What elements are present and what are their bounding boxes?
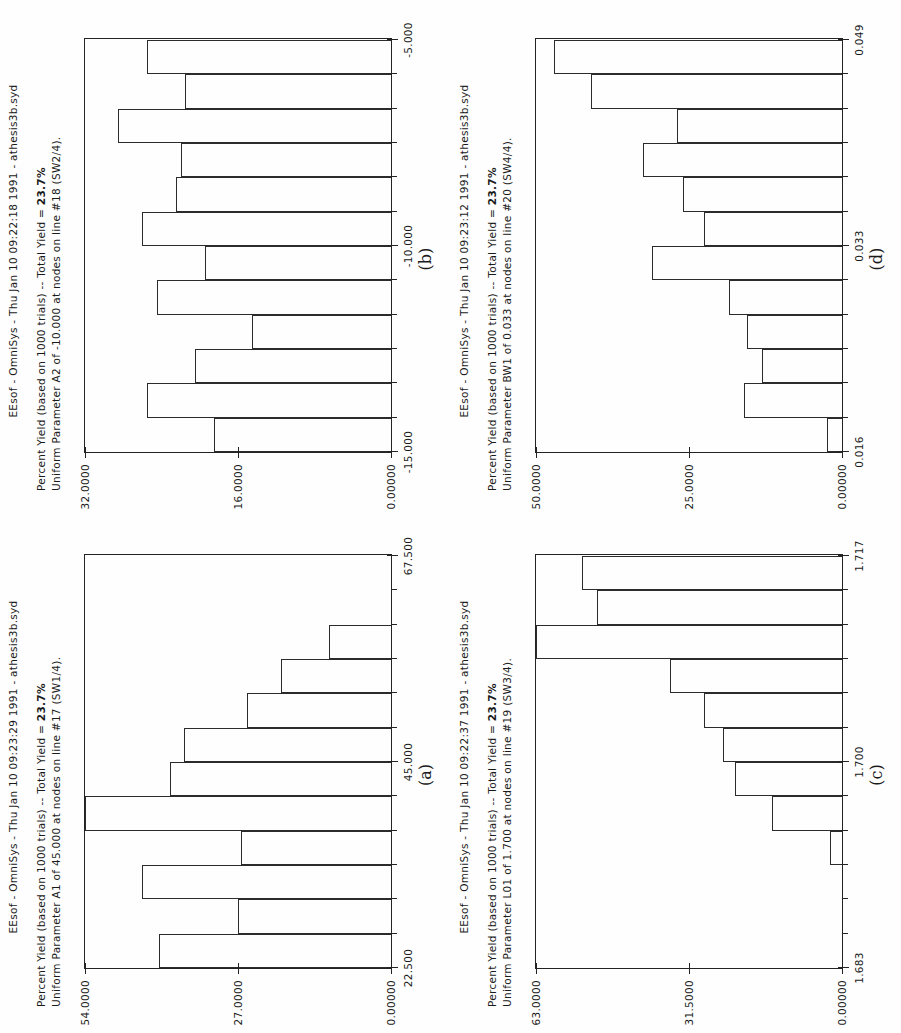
- x-tick-minor: [843, 176, 848, 177]
- x-tick-major: [387, 451, 398, 452]
- panel-a: EEsof - OmniSys - Thu Jan 10 09:23:29 19…: [0, 517, 450, 1033]
- histogram-bars: [536, 40, 842, 452]
- plot-subtitle-line2: Uniform Parameter A1 of 45.000 at nodes …: [49, 527, 64, 1007]
- x-tick-minor: [392, 416, 397, 417]
- total-yield-value: 23.7%: [35, 683, 47, 721]
- plot-subtitle-line2: Uniform Parameter L01 of 1.700 at nodes …: [500, 527, 515, 1007]
- plot-subtitle-line2: Uniform Parameter BW1 of 0.033 at nodes …: [500, 11, 515, 491]
- total-yield-value: 23.7%: [486, 167, 498, 205]
- histogram-bar: [772, 796, 842, 830]
- yield-text: Percent Yield (based on 1000 trials) -- …: [486, 721, 498, 1007]
- plot-subtitle-line2: Uniform Parameter A2 of -10.000 at nodes…: [49, 11, 64, 491]
- histogram-bar: [205, 246, 391, 280]
- histogram-bar: [704, 693, 842, 727]
- x-tick-major: [838, 451, 849, 452]
- x-tick-minor: [843, 727, 848, 728]
- x-tick-minor: [843, 382, 848, 383]
- title-block: EEsof - OmniSys - Thu Jan 10 09:23:12 19…: [457, 11, 515, 491]
- x-tick-minor: [843, 313, 848, 314]
- histogram-bar: [214, 417, 391, 451]
- x-tick-major: [387, 761, 398, 762]
- plot-header: EEsof - OmniSys - Thu Jan 10 09:23:12 19…: [457, 11, 472, 491]
- x-tick-minor: [843, 107, 848, 108]
- x-axis-label: 22.500: [402, 949, 414, 988]
- title-block: EEsof - OmniSys - Thu Jan 10 09:22:37 19…: [457, 527, 515, 1007]
- x-axis-label: -5.000: [402, 22, 414, 58]
- histogram-bar: [830, 831, 842, 865]
- axes-right-line: [84, 38, 392, 39]
- x-tick-minor: [392, 864, 397, 865]
- histogram-bar: [281, 659, 392, 693]
- y-tick: [536, 447, 537, 458]
- y-tick: [85, 447, 86, 458]
- plot-subtitle-line1: Percent Yield (based on 1000 trials) -- …: [34, 527, 49, 1007]
- x-tick-minor: [843, 864, 848, 865]
- y-axis-label: 63.0000: [530, 980, 542, 1026]
- x-tick-minor: [392, 348, 397, 349]
- x-tick-minor: [843, 658, 848, 659]
- histogram-bar: [735, 762, 842, 796]
- title-block: EEsof - OmniSys - Thu Jan 10 09:22:18 19…: [6, 11, 64, 491]
- x-tick-minor: [392, 898, 397, 899]
- x-tick-minor: [392, 176, 397, 177]
- x-tick-major: [387, 39, 398, 40]
- histogram-bar: [181, 143, 391, 177]
- histogram-bar: [147, 383, 391, 417]
- histogram-bar: [591, 74, 842, 108]
- histogram-bar: [723, 728, 842, 762]
- x-tick-major: [838, 555, 849, 556]
- figure-page: EEsof - OmniSys - Thu Jan 10 09:22:18 19…: [0, 0, 901, 1033]
- y-tick: [238, 963, 239, 974]
- y-tick: [536, 963, 537, 974]
- y-tick: [391, 447, 392, 458]
- histogram-bar: [252, 314, 391, 348]
- yield-text: Percent Yield (based on 1000 trials) -- …: [486, 205, 498, 491]
- x-tick-major: [387, 555, 398, 556]
- histogram-bar: [729, 280, 842, 314]
- x-axis-label: 0.016: [853, 436, 865, 468]
- histogram-bar: [176, 177, 391, 211]
- histogram-bar: [762, 349, 842, 383]
- x-tick-minor: [843, 348, 848, 349]
- histogram-bar: [142, 211, 391, 245]
- x-tick-major: [838, 39, 849, 40]
- y-axis-label: 27.0000: [232, 980, 244, 1026]
- x-tick-minor: [843, 279, 848, 280]
- y-axis-label: 31.5000: [683, 980, 695, 1026]
- histogram-bar: [683, 177, 842, 211]
- histogram-bar: [118, 108, 391, 142]
- y-axis-label: 50.0000: [530, 464, 542, 510]
- x-tick-minor: [392, 795, 397, 796]
- x-tick-minor: [392, 279, 397, 280]
- histogram-bars: [536, 556, 842, 968]
- x-tick-major: [838, 761, 849, 762]
- plot-subtitle-line1: Percent Yield (based on 1000 trials) -- …: [485, 527, 500, 1007]
- histogram-bar: [170, 762, 391, 796]
- x-axis-label: 0.033: [853, 230, 865, 262]
- plot-header: EEsof - OmniSys - Thu Jan 10 09:22:18 19…: [6, 11, 21, 491]
- y-tick: [238, 447, 239, 458]
- x-tick-minor: [392, 382, 397, 383]
- x-tick-minor: [843, 589, 848, 590]
- panel-d: EEsof - OmniSys - Thu Jan 10 09:23:12 19…: [451, 0, 901, 517]
- panel-caption: (d): [867, 1, 886, 517]
- yield-text: Percent Yield (based on 1000 trials) -- …: [35, 205, 47, 491]
- x-tick-major: [838, 967, 849, 968]
- panel-b: EEsof - OmniSys - Thu Jan 10 09:22:18 19…: [0, 0, 450, 517]
- x-tick-minor: [392, 210, 397, 211]
- x-tick-minor: [392, 658, 397, 659]
- x-tick-minor: [843, 898, 848, 899]
- x-axis-label: -15.000: [402, 430, 414, 473]
- y-axis-label: 0.00000: [836, 980, 848, 1026]
- histogram-bar: [643, 143, 842, 177]
- x-tick-minor: [843, 933, 848, 934]
- x-tick-minor: [392, 830, 397, 831]
- plot-subtitle-line1: Percent Yield (based on 1000 trials) -- …: [485, 11, 500, 491]
- plot-header: EEsof - OmniSys - Thu Jan 10 09:23:29 19…: [6, 527, 21, 1007]
- x-tick-minor: [392, 624, 397, 625]
- histogram-bar: [677, 108, 842, 142]
- y-axis-label: 0.00000: [836, 464, 848, 510]
- y-tick: [85, 963, 86, 974]
- x-tick-minor: [392, 589, 397, 590]
- yield-text: Percent Yield (based on 1000 trials) -- …: [35, 721, 47, 1007]
